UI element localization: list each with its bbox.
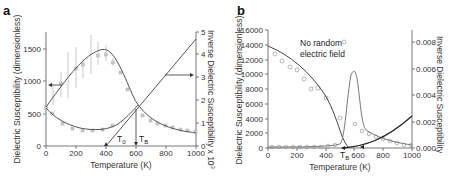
x-tick: 400 bbox=[99, 149, 113, 158]
panel-b-y-axis-label: Dielectric Susceptibility (dimensionless… bbox=[234, 15, 244, 164]
y-tick: 12000 bbox=[241, 56, 264, 65]
y-tick: 1500 bbox=[23, 45, 41, 54]
y2-tick: 0.000 bbox=[416, 144, 437, 153]
figure: a 0 200 bbox=[0, 0, 457, 181]
y2-tick: 4 bbox=[201, 50, 206, 59]
panel-b-note-line2: electric field bbox=[300, 49, 345, 59]
x-tick: 0 bbox=[266, 151, 271, 160]
y2-tick: 0.008 bbox=[416, 38, 437, 47]
panel-b-y2-axis-label: Inverse Dielectric Susceptibility bbox=[435, 36, 445, 154]
y2-tick: 0.006 bbox=[416, 65, 437, 74]
panel-a-x-tick-labels: 0 200 400 600 800 1000 bbox=[44, 149, 206, 158]
panel-a-x-axis-label: Temperature (K) bbox=[90, 160, 152, 170]
panel-a-susceptibility-curve bbox=[46, 49, 196, 133]
y-tick: 1000 bbox=[23, 77, 41, 86]
panel-a-y-tick-labels: 0 500 1000 1500 bbox=[23, 45, 41, 151]
x-tick: 400 bbox=[319, 151, 333, 160]
y-tick: 6000 bbox=[245, 100, 263, 109]
panel-a-curie-weiss-line bbox=[106, 39, 196, 146]
panel-a-y2-tick-labels: 0 1 2 3 4 5 bbox=[201, 28, 206, 151]
x-tick: 200 bbox=[290, 151, 304, 160]
panel-b: b 0 200 bbox=[234, 3, 445, 172]
y-tick: 16000 bbox=[241, 26, 264, 35]
x-tick: 600 bbox=[129, 149, 143, 158]
arrow-left-icon bbox=[48, 83, 52, 87]
panel-a: a 0 200 bbox=[3, 3, 216, 170]
y-tick: 8000 bbox=[245, 85, 263, 94]
panel-b-y-tick-labels: 0 2000 4000 6000 8000 10000 12000 14000 … bbox=[241, 26, 264, 153]
chart-canvas: a 0 200 bbox=[0, 0, 457, 181]
y-tick: 4000 bbox=[245, 115, 263, 124]
y2-tick: 0.002 bbox=[416, 118, 437, 127]
x-tick: 600 bbox=[351, 151, 365, 160]
panel-a-label: a bbox=[3, 3, 11, 18]
y2-tick: 0.004 bbox=[416, 91, 437, 100]
y-tick: 10000 bbox=[241, 70, 264, 79]
panel-a-axes bbox=[43, 32, 199, 149]
panel-a-y2-axis-label: Inverse Dielectric Susceptibility x 103 bbox=[206, 30, 216, 170]
x-tick: 0 bbox=[44, 149, 49, 158]
panel-a-inverse-curve bbox=[46, 105, 138, 130]
y-tick: 0 bbox=[259, 144, 264, 153]
arrow-right-icon bbox=[190, 73, 194, 77]
x-tick: 800 bbox=[159, 149, 173, 158]
x-tick: 200 bbox=[69, 149, 83, 158]
panel-a-y-axis-label: Dielectric Susceptibility (dimensionless… bbox=[12, 14, 22, 163]
panel-b-tb-label: TB bbox=[340, 150, 349, 161]
panel-b-note-line1: No random bbox=[300, 38, 342, 48]
y2-tick: 0 bbox=[201, 142, 206, 151]
panel-a-t0-label: T0 bbox=[117, 134, 126, 145]
y-tick: 0 bbox=[37, 142, 42, 151]
tb-arrow-icon bbox=[134, 142, 138, 146]
panel-b-susceptibility-fit-curve bbox=[268, 71, 412, 147]
y2-tick: 3 bbox=[201, 73, 206, 82]
y2-tick: 5 bbox=[201, 28, 206, 37]
y2-tick: 1 bbox=[201, 119, 206, 128]
y-tick: 2000 bbox=[245, 129, 263, 138]
panel-a-error-bars bbox=[46, 35, 113, 123]
x-tick: 800 bbox=[376, 151, 390, 160]
y-tick: 500 bbox=[28, 110, 42, 119]
panel-b-y2-tick-labels: 0.000 0.002 0.004 0.006 0.008 bbox=[416, 38, 437, 153]
panel-b-x-axis-label: Temperature (K) bbox=[309, 162, 371, 172]
y-tick: 14000 bbox=[241, 41, 264, 50]
y2-tick: 2 bbox=[201, 96, 206, 105]
panel-a-tb-label: TB bbox=[139, 134, 148, 145]
